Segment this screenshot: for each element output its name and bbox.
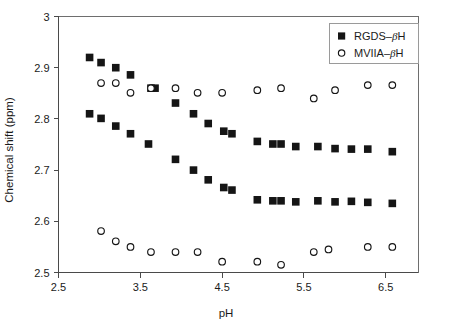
data-point-square — [204, 176, 212, 184]
data-point-square — [86, 54, 94, 62]
legend-label: RGDS–βH — [354, 30, 405, 42]
data-point-square — [172, 156, 180, 164]
data-point-circle — [332, 87, 339, 94]
data-point-square — [292, 143, 300, 151]
data-point-square — [348, 145, 356, 153]
x-tick-label: 6.5 — [378, 281, 393, 293]
series-group — [98, 228, 396, 268]
data-point-square — [228, 186, 236, 194]
data-point-circle — [112, 238, 119, 245]
scatter-plot: 2.52.62.72.82.932.53.54.55.56.5 RGDS–βHM… — [0, 0, 449, 325]
data-point-square — [145, 140, 153, 148]
series-group — [86, 54, 396, 156]
data-point-circle — [389, 82, 396, 89]
data-point-square — [314, 143, 322, 151]
legend-label: MVIIA–βH — [354, 47, 404, 59]
data-point-square — [172, 99, 180, 107]
chart-legend: RGDS–βHMVIIA–βH — [329, 23, 418, 63]
data-point-square — [277, 197, 285, 205]
data-point-square — [364, 199, 372, 207]
x-tick-label: 5.5 — [296, 281, 311, 293]
figure-container: 2.52.62.72.82.932.53.54.55.56.5 RGDS–βHM… — [0, 0, 449, 325]
data-point-square — [331, 198, 339, 206]
data-point-circle — [172, 85, 179, 92]
data-point-square — [112, 64, 120, 72]
data-point-square — [331, 145, 339, 153]
data-point-square — [269, 197, 277, 205]
data-point-square — [220, 184, 228, 192]
data-point-circle — [254, 258, 261, 265]
x-tick-label: 4.5 — [214, 281, 229, 293]
data-point-circle — [194, 249, 201, 256]
y-tick-label: 3 — [43, 11, 49, 23]
y-tick-label: 2.6 — [34, 215, 49, 227]
data-point-square — [190, 110, 198, 118]
data-markers — [86, 54, 396, 268]
data-point-circle — [148, 85, 155, 92]
data-point-square — [86, 110, 94, 118]
y-tick-label: 2.9 — [34, 62, 49, 74]
data-point-square — [228, 130, 236, 138]
data-point-circle — [219, 89, 226, 96]
legend-marker-circle — [338, 50, 344, 56]
data-point-circle — [98, 228, 105, 235]
y-tick-label: 2.7 — [34, 164, 49, 176]
y-axis-title: Chemical shift (ppm) — [3, 97, 15, 203]
data-point-circle — [98, 80, 105, 87]
data-point-circle — [364, 82, 371, 89]
data-point-circle — [194, 89, 201, 96]
data-point-circle — [310, 249, 317, 256]
data-point-square — [190, 166, 198, 174]
data-point-square — [254, 196, 262, 204]
data-point-circle — [310, 95, 317, 102]
data-point-square — [292, 198, 300, 206]
data-point-square — [348, 198, 356, 206]
data-point-square — [112, 122, 120, 130]
data-point-circle — [127, 89, 134, 96]
data-point-circle — [278, 262, 285, 269]
data-point-square — [97, 115, 105, 123]
data-point-square — [269, 140, 277, 148]
series-group — [98, 80, 396, 102]
data-point-circle — [219, 258, 226, 265]
data-point-circle — [278, 85, 285, 92]
data-point-square — [254, 138, 262, 146]
y-tick-label: 2.8 — [34, 113, 49, 125]
x-tick-label: 2.5 — [51, 281, 66, 293]
data-point-circle — [389, 244, 396, 251]
data-point-square — [314, 197, 322, 205]
data-point-square — [364, 145, 372, 153]
data-point-circle — [148, 249, 155, 256]
series-group — [86, 110, 396, 207]
data-point-circle — [112, 80, 119, 87]
data-point-square — [97, 59, 105, 67]
data-point-circle — [364, 244, 371, 251]
data-point-square — [127, 130, 135, 138]
data-point-circle — [325, 246, 332, 253]
data-point-circle — [172, 249, 179, 256]
data-point-square — [389, 200, 397, 208]
data-point-circle — [127, 244, 134, 251]
data-point-square — [389, 148, 397, 156]
legend-marker-square — [338, 32, 345, 39]
data-point-square — [127, 71, 135, 79]
data-point-square — [277, 140, 285, 148]
data-point-circle — [254, 87, 261, 94]
x-axis-title: pH — [219, 307, 234, 319]
data-point-square — [220, 127, 228, 135]
data-point-square — [204, 120, 212, 128]
y-tick-label: 2.5 — [34, 267, 49, 279]
x-tick-label: 3.5 — [133, 281, 148, 293]
